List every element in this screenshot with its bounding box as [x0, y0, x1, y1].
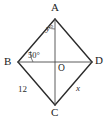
- side-length-label-12: 12: [18, 85, 27, 94]
- geometry-figure: A B C D O y° 50° 12 x: [0, 0, 111, 120]
- vertex-label-b: B: [4, 56, 11, 67]
- side-length-label-x: x: [76, 84, 80, 93]
- center-label-o: O: [58, 64, 65, 74]
- vertex-label-a: A: [51, 2, 59, 13]
- vertex-label-c: C: [51, 107, 58, 118]
- side-AD: [55, 19, 92, 62]
- angle-label-50: 50°: [28, 51, 40, 60]
- vertex-label-d: D: [95, 55, 103, 66]
- angle-label-y: y°: [46, 24, 53, 33]
